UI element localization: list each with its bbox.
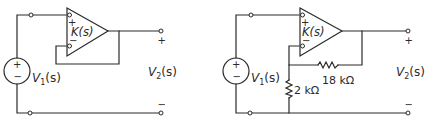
right-feedback-node-wire	[289, 46, 318, 65]
right-output-minus-sign: −	[405, 99, 413, 110]
left-output-minus-sign: −	[158, 99, 166, 110]
right-output-plus-sign: +	[405, 35, 413, 46]
right-source-label: V1(s)	[251, 71, 280, 87]
left-input-bottom-terminal	[28, 111, 32, 115]
left-output-plus-terminal	[159, 29, 163, 33]
left-input-top-terminal	[29, 13, 33, 17]
right-source-plus-sign: +	[232, 59, 240, 70]
right-opamp-gain-label: K(s)	[302, 25, 325, 39]
right-source-minus-sign: −	[233, 71, 241, 82]
right-input-bottom-terminal	[248, 111, 252, 115]
resistor-18k-icon	[318, 62, 338, 68]
resistor-2k-label: 2 kΩ	[294, 84, 319, 97]
resistor-18k-label: 18 kΩ	[322, 74, 354, 87]
left-source-plus-sign: +	[13, 59, 21, 70]
left-output-plus-sign: +	[158, 35, 166, 46]
left-circuit: + − K(s) + − V1(s) + − V2(s)	[4, 8, 177, 115]
right-output-label: V2(s)	[396, 65, 425, 81]
resistor-2k-icon	[286, 80, 292, 98]
right-output-minus-terminal	[406, 111, 410, 115]
right-output-plus-terminal	[406, 29, 410, 33]
right-circuit: 18 kΩ 2 kΩ + − K(s) + − V1(s) + − V2(s)	[223, 8, 425, 115]
left-opamp-gain-label: K(s)	[71, 25, 94, 39]
left-top-wire	[17, 15, 66, 58]
left-source-label: V1(s)	[32, 71, 61, 87]
circuit-diagram: + − K(s) + − V1(s) + − V2(s) 18 kΩ 2 kΩ	[0, 0, 434, 121]
left-source-minus-sign: −	[14, 71, 22, 82]
left-output-minus-terminal	[159, 111, 163, 115]
right-bottom-wire	[236, 84, 408, 113]
left-bottom-wire	[17, 84, 161, 113]
left-output-label: V2(s)	[148, 65, 177, 81]
right-feedback-top-wire	[338, 31, 362, 65]
right-input-top-terminal	[249, 13, 253, 17]
